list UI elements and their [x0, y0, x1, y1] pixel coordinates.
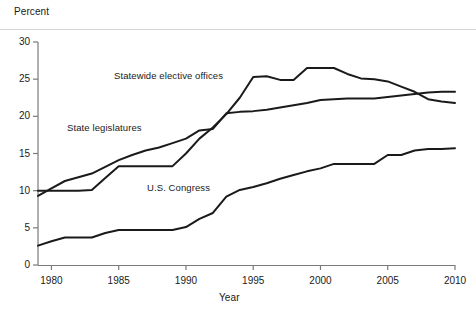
series-line — [38, 148, 455, 245]
y-axis-ticks — [33, 42, 38, 265]
plot-area — [0, 0, 476, 317]
series-line — [38, 92, 455, 196]
percent-by-year-line-chart: Percent Year 051015202530 19801985199019… — [0, 0, 476, 317]
series-line — [38, 68, 455, 191]
data-series-lines — [38, 68, 455, 246]
